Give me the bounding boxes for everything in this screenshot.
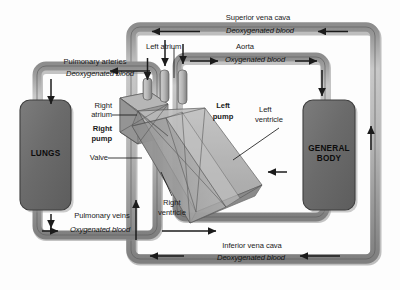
label-general-body: GENERAL BODY [303,144,355,164]
label-left-ventricle-line2: ventricle [255,115,283,124]
label-inferior-vena-cava: Inferior vena cava [193,241,311,250]
label-lungs: LUNGS [20,149,71,159]
label-left-atrium: Left atrium [146,42,181,51]
right-atrium-inlet-tube [143,78,152,100]
label-aorta-blood: Oxygenated blood [203,55,307,64]
label-left-pump-line1: Left [199,101,247,110]
label-superior-vena-cava: Superior vena cava [193,13,323,22]
label-superior-vena-cava-blood: Deoxygenated blood [200,26,320,35]
label-left-ventricle-line1: Left [259,105,271,114]
label-right-atrium-line2: atrium [62,110,112,119]
left-atrium-inlet-tube [178,70,187,104]
label-pulmonary-arteries: Pulmonary arteries [40,57,150,66]
label-pulmonary-veins: Pulmonary veins [52,211,152,220]
circulatory-system-diagram: Superior vena cava Deoxygenated blood Ao… [0,0,400,290]
label-pulmonary-arteries-blood: Deoxygenated blood [48,69,152,78]
label-right-ventricle-line1: Right [163,198,180,207]
label-aorta: Aorta [215,42,275,51]
label-right-pump-line2: pump [58,134,112,143]
label-right-pump-line1: Right [58,124,112,133]
label-inferior-vena-cava-blood: Deoxygenated blood [190,253,312,262]
label-left-pump-line2: pump [199,112,247,121]
label-right-ventricle-line2: ventricle [158,208,186,217]
label-right-atrium-line1: Right [62,101,112,110]
leader-left-ventricle [233,128,279,160]
label-pulmonary-veins-blood: Oxygenated blood [50,225,150,234]
heart-pump-model [120,70,262,223]
vena-cava-inlet-tube [160,70,169,102]
